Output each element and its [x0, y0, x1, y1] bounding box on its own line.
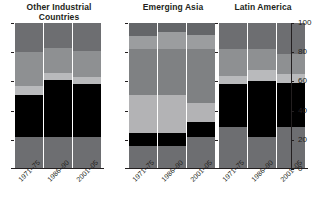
y-axis-line — [291, 23, 292, 170]
segment-4 — [248, 81, 276, 136]
segment-5 — [187, 122, 215, 137]
tick-0 — [215, 168, 218, 169]
segment-2 — [44, 48, 72, 73]
segment-2 — [158, 32, 186, 50]
y-label-0: 0 — [298, 165, 302, 173]
segment-1 — [248, 23, 276, 49]
panel-title-line1: Other Industrial — [27, 2, 92, 12]
bar-2001-05[interactable] — [73, 23, 101, 169]
segment-1 — [44, 23, 72, 48]
segment-3 — [15, 86, 43, 95]
tick-100 — [215, 23, 218, 24]
tick-100 — [11, 23, 14, 24]
plot-area — [14, 23, 104, 169]
y-tick-60 — [291, 81, 294, 82]
tick-60 — [215, 81, 218, 82]
tick-80 — [11, 52, 14, 53]
y-label-20: 20 — [298, 136, 307, 144]
y-tick-0 — [291, 169, 294, 170]
y-label-100: 100 — [298, 19, 311, 27]
segment-5 — [158, 133, 186, 146]
tick-40 — [215, 111, 218, 112]
y-label-40: 40 — [298, 107, 307, 115]
bar-1986-90[interactable] — [248, 23, 276, 169]
segment-3 — [248, 70, 276, 82]
plot-area — [128, 23, 218, 169]
tick-80 — [215, 52, 218, 53]
panel-title-line2: Countries — [39, 12, 80, 22]
panel-title: Emerging Asia — [128, 2, 218, 12]
tick-20 — [11, 140, 14, 141]
tick-0 — [11, 168, 14, 169]
bar-1971-75[interactable] — [219, 23, 247, 169]
segment-4 — [219, 84, 247, 126]
segment-2 — [187, 35, 215, 50]
y-label-80: 80 — [298, 48, 307, 56]
y-tick-20 — [291, 140, 294, 141]
panel-emerging-asia: Emerging Asia — [128, 0, 218, 219]
segment-1 — [15, 23, 43, 52]
segment-1 — [158, 23, 186, 32]
segment-1 — [73, 23, 101, 51]
segment-4 — [158, 95, 186, 133]
x-tick-labels: 1971–75 1986–90 2001–05 — [14, 172, 104, 216]
segment-1 — [219, 23, 247, 49]
y-axis: 100 80 60 40 20 0 — [291, 23, 321, 169]
panel-other-industrial-countries: Other Industrial Countries — [14, 0, 104, 219]
segment-2 — [15, 52, 43, 86]
segment-3 — [187, 49, 215, 103]
bar-1971-75[interactable] — [15, 23, 43, 169]
segment-4 — [129, 95, 157, 133]
x-tick-labels: 1971–75 1986–90 2001–05 — [128, 172, 218, 216]
segment-4 — [15, 95, 43, 137]
segment-2 — [248, 49, 276, 69]
segment-4 — [44, 80, 72, 137]
tick-40 — [11, 111, 14, 112]
bar-1971-75[interactable] — [129, 23, 157, 169]
tick-60 — [125, 81, 128, 82]
segment-1 — [187, 23, 215, 35]
bar-1986-90[interactable] — [44, 23, 72, 169]
y-tick-80 — [291, 52, 294, 53]
segment-2 — [73, 51, 101, 77]
segment-3 — [219, 76, 247, 85]
segment-4 — [187, 103, 215, 122]
panel-title: Latin America — [218, 2, 308, 12]
y-label-60: 60 — [298, 77, 307, 85]
tick-20 — [125, 140, 128, 141]
stacked-bar-chart: Other Industrial Countries — [0, 0, 321, 219]
panel-title-line1: Emerging Asia — [143, 2, 204, 12]
segment-2 — [129, 36, 157, 49]
segment-2 — [219, 49, 247, 75]
segment-3 — [129, 49, 157, 94]
segment-4 — [73, 84, 101, 137]
segment-3 — [73, 77, 101, 84]
segment-1 — [129, 23, 157, 36]
tick-100 — [125, 23, 128, 24]
bar-1986-90[interactable] — [158, 23, 186, 169]
tick-20 — [215, 140, 218, 141]
tick-0 — [125, 168, 128, 169]
bar-2001-05[interactable] — [187, 23, 215, 169]
y-tick-40 — [291, 111, 294, 112]
x-tick-labels: 1971–75 1986–90 2001–05 — [218, 172, 308, 216]
tick-60 — [11, 81, 14, 82]
segment-3 — [158, 49, 186, 94]
tick-40 — [125, 111, 128, 112]
tick-80 — [125, 52, 128, 53]
segment-5 — [129, 133, 157, 146]
y-tick-100 — [291, 23, 294, 24]
panel-title-line1: Latin America — [234, 2, 291, 12]
panel-title: Other Industrial Countries — [14, 2, 104, 22]
segment-3 — [44, 73, 72, 80]
